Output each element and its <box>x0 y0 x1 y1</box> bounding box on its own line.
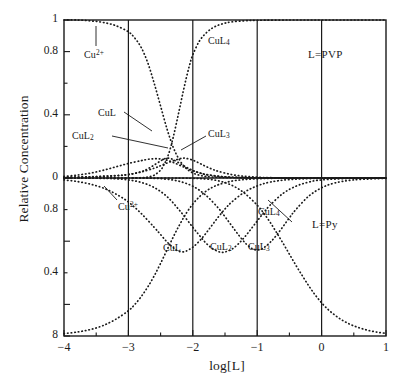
y-tick-top-1: 0.8 <box>0 44 58 56</box>
curve-cul3 <box>64 158 386 178</box>
curve-cul4 <box>64 178 386 333</box>
speciation-chart-figure: Relative Concentration log[L] 10.80.400.… <box>0 0 396 389</box>
panel-annotation-top-lpvp: L=PVP <box>308 48 343 60</box>
y-tick-top-0: 1 <box>0 12 58 24</box>
curve-label-bottom-cu2: Cu2+ <box>118 200 138 212</box>
y-tick-top-2: 0.4 <box>0 107 58 119</box>
curve-label-bottom-cul4: CuL4 <box>258 206 280 218</box>
x-tick-0: −4 <box>44 340 84 355</box>
y-tick-top-3: 0 <box>0 170 58 182</box>
curve-label-top-cul2: CuL2 <box>72 130 94 142</box>
x-tick-3: −1 <box>237 340 277 355</box>
curve-cul2 <box>64 159 386 178</box>
y-tick-bottom-2: 8 <box>0 328 58 340</box>
curve-label-bottom-cul2: CuL2 <box>210 241 232 253</box>
curve-cu2+ <box>64 178 386 334</box>
x-tick-5: 1 <box>366 340 396 355</box>
panel-annotation-bottom-lpy: L=Py <box>312 218 338 230</box>
curve-label-top-cu2: Cu2+ <box>84 48 104 60</box>
x-tick-2: −2 <box>173 340 213 355</box>
curve-label-bottom-cul: CuL <box>163 242 181 253</box>
curve-label-top-cul3: CuL3 <box>208 128 230 140</box>
x-tick-1: −3 <box>108 340 148 355</box>
y-tick-bottom-0: 0.8 <box>0 202 58 214</box>
curve-label-bottom-cul3: CuL3 <box>248 241 270 253</box>
x-tick-4: 0 <box>302 340 342 355</box>
curve-cul3 <box>64 178 386 250</box>
curve-label-top-cul4: CuL4 <box>208 35 230 47</box>
curve-label-top-cul: CuL <box>98 107 116 118</box>
curve-cul <box>64 158 386 178</box>
y-tick-bottom-1: 0.4 <box>0 265 58 277</box>
